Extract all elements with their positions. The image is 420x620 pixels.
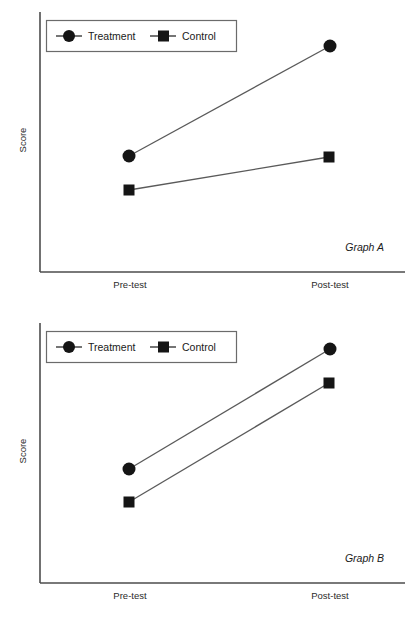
graph-b-legend-treatment-circle-icon bbox=[63, 341, 75, 353]
graph-b-caption: Graph B bbox=[345, 552, 384, 564]
graph-b-legend-treatment-label: Treatment bbox=[88, 341, 136, 353]
graph-b-treatment-line bbox=[129, 349, 330, 469]
graph-b-treatment-point-post-test bbox=[324, 343, 337, 356]
graph-a-y-axis-title: Score bbox=[17, 128, 28, 153]
graph-a-x-tick-pre-test: Pre-test bbox=[113, 279, 147, 290]
graph-a-legend-control-label: Control bbox=[182, 30, 216, 42]
graph-b-y-axis-title: Score bbox=[17, 439, 28, 464]
graph-a-treatment-point-pre-test bbox=[123, 150, 136, 163]
graph-a-legend: Treatment Control bbox=[47, 21, 237, 52]
graph-a-treatment-point-post-test bbox=[324, 40, 337, 53]
graph-a-legend-control-square-icon bbox=[158, 31, 169, 42]
graph-a-x-tick-post-test: Post-test bbox=[311, 279, 349, 290]
figure-page: Treatment Control Score Pre-test Post-te… bbox=[0, 0, 420, 620]
graph-b-control-line bbox=[129, 383, 329, 502]
graph-a-legend-treatment-label: Treatment bbox=[88, 30, 136, 42]
graph-b-legend-entry-control: Control bbox=[150, 341, 216, 353]
graph-b-legend: Treatment Control bbox=[47, 332, 237, 363]
graph-a-legend-entry-control: Control bbox=[150, 30, 216, 42]
graph-b-control-point-pre-test bbox=[124, 497, 135, 508]
chart-panel-graph-a: Treatment Control Score Pre-test Post-te… bbox=[0, 0, 420, 310]
graph-b-legend-control-label: Control bbox=[182, 341, 216, 353]
graph-b-x-tick-pre-test: Pre-test bbox=[113, 590, 147, 601]
graph-b-control-point-post-test bbox=[324, 378, 335, 389]
graph-b-treatment-point-pre-test bbox=[123, 463, 136, 476]
chart-panel-graph-b: Treatment Control Score Pre-test Post-te… bbox=[0, 310, 420, 620]
graph-b-legend-control-square-icon bbox=[158, 342, 169, 353]
graph-b-plot: Treatment Control Score Pre-test Post-te… bbox=[0, 310, 420, 620]
graph-b-x-tick-post-test: Post-test bbox=[311, 590, 349, 601]
graph-b-legend-entry-treatment: Treatment bbox=[56, 341, 136, 353]
graph-a-control-point-post-test bbox=[324, 152, 335, 163]
graph-a-legend-treatment-circle-icon bbox=[63, 30, 75, 42]
graph-a-control-line bbox=[129, 157, 329, 190]
graph-a-plot: Treatment Control Score Pre-test Post-te… bbox=[0, 0, 420, 310]
graph-a-legend-entry-treatment: Treatment bbox=[56, 30, 136, 42]
graph-a-caption: Graph A bbox=[345, 241, 384, 253]
graph-a-treatment-line bbox=[129, 46, 330, 156]
graph-a-control-point-pre-test bbox=[124, 185, 135, 196]
